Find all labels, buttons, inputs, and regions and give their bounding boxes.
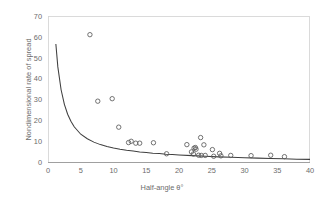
data-point bbox=[198, 135, 202, 139]
data-point bbox=[88, 32, 92, 36]
fitted-curve bbox=[56, 44, 310, 159]
data-point bbox=[269, 153, 273, 157]
x-axis-title: Half-angle θ° bbox=[0, 183, 324, 192]
data-point bbox=[185, 142, 189, 146]
plot-canvas bbox=[0, 0, 324, 206]
data-point-group bbox=[88, 32, 287, 158]
data-point bbox=[96, 99, 100, 103]
data-point bbox=[202, 143, 206, 147]
data-point bbox=[151, 141, 155, 145]
data-point bbox=[249, 153, 253, 157]
chart-figure: Nondimensional rate of spread 0102030405… bbox=[0, 0, 324, 206]
data-point bbox=[126, 140, 130, 144]
data-point bbox=[110, 96, 114, 100]
data-point bbox=[210, 147, 214, 151]
data-point bbox=[129, 139, 133, 143]
plot-frame bbox=[49, 17, 310, 163]
data-point bbox=[282, 154, 286, 158]
data-point bbox=[117, 125, 121, 129]
